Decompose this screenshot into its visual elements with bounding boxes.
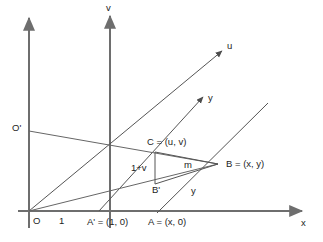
- origin-label: O: [33, 215, 40, 226]
- b-prime-label: B': [152, 184, 160, 195]
- o-prime-label: O': [12, 122, 21, 133]
- one-plus-v-label: 1+v: [131, 162, 147, 173]
- c-point-label: C = (u, v): [147, 136, 186, 147]
- labels-group: x v u y O 1 O' C = (u, v) B' B = (x, y) …: [12, 2, 306, 228]
- geometry-figure: x v u y O 1 O' C = (u, v) B' B = (x, y) …: [0, 0, 323, 242]
- axes-group: [18, 16, 302, 228]
- v-axis-label: v: [106, 2, 111, 13]
- construction-group: [29, 131, 218, 211]
- rays-group: [29, 51, 268, 213]
- y-ray-label: y: [208, 92, 213, 103]
- b-point-label: B = (x, y): [226, 158, 264, 169]
- a-point-label: A = (x, 0): [148, 216, 186, 227]
- diagram-canvas: x v u y O 1 O' C = (u, v) B' B = (x, y) …: [0, 0, 323, 242]
- y-ray-line: [99, 97, 203, 211]
- unit-label: 1: [59, 215, 64, 226]
- m-label: m: [184, 159, 192, 170]
- u-ray-label: u: [227, 40, 232, 51]
- y-segment-label: y: [191, 185, 196, 196]
- a-prime-label: A' = (1, 0): [87, 216, 128, 227]
- x-axis-label: x: [301, 217, 306, 228]
